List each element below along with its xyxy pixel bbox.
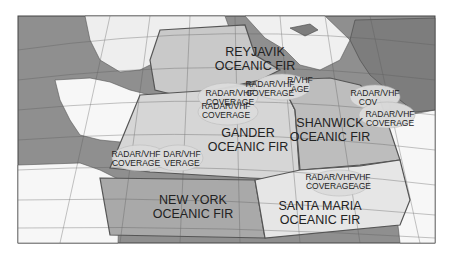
fir-label-new-york-2: OCEANIC FIR: [153, 207, 234, 221]
fir-label-reykjavik-1: REYJAVIK: [225, 45, 285, 59]
coverage-label: VERAGE: [164, 158, 200, 168]
coverage-label: COVERAGE: [306, 181, 355, 191]
fir-label-reykjavik-2: OCEANIC FIR: [215, 59, 296, 73]
oceanic-fir-map: REYJAVIK OCEANIC FIR GANDER OCEANIC FIR …: [0, 0, 453, 258]
fir-label-shanwick-1: SHANWICK: [296, 116, 364, 130]
coverage-label: COVERAGE: [366, 118, 415, 128]
coverage-label: COVERAGE: [112, 158, 161, 168]
coverage-label: COVERAGE: [202, 110, 251, 120]
fir-label-gander-1: GANDER: [221, 126, 274, 140]
fir-label-shanwick-2: OCEANIC FIR: [290, 130, 371, 144]
coverage-label: COV: [359, 97, 378, 107]
fir-label-santa-maria-1: SANTA MARIA: [278, 199, 362, 213]
fir-label-new-york-1: NEW YORK: [159, 193, 227, 207]
coverage-label: COVERAGE: [246, 88, 295, 98]
fir-label-gander-2: OCEANIC FIR: [208, 140, 289, 154]
coverage-label: AGE: [353, 181, 371, 191]
fir-label-santa-maria-2: OCEANIC FIR: [280, 213, 361, 227]
